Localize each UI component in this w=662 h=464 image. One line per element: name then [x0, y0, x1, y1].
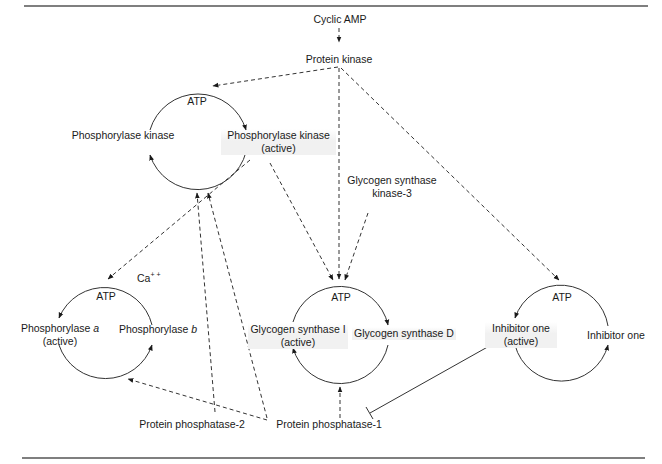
label-protein-kinase: Protein kinase — [298, 53, 380, 66]
pathway-diagram — [0, 0, 662, 464]
cycle3-atp: ATP — [329, 291, 353, 304]
cycle3-left-line1: Glycogen synthase I — [248, 323, 348, 336]
cycle4-left: Inhibitor one (active) — [485, 322, 557, 348]
gsk3-line2: kinase-3 — [342, 187, 442, 200]
edge-phk-to-gs-cycle — [270, 163, 333, 280]
cycle4-atp: ATP — [550, 291, 574, 304]
ca-superscript: + + — [150, 271, 160, 278]
cycle3-left-line2: (active) — [248, 336, 348, 349]
label-cyclic-amp: Cyclic AMP — [304, 13, 376, 26]
cycle4-left-line1: Inhibitor one — [485, 322, 557, 335]
cycle2-left-line1: Phosphorylase a — [20, 322, 100, 335]
label-calcium: Ca+ + — [137, 268, 167, 285]
cycle3-left: Glycogen synthase I (active) — [248, 323, 348, 349]
cycle3-right: Glycogen synthase D — [352, 327, 456, 340]
cycle2-right: Phosphorylase b — [116, 323, 200, 336]
cycle1-right-line2: (active) — [221, 142, 336, 155]
gsk3-line1: Glycogen synthase — [342, 174, 442, 187]
cycle4-left-line2: (active) — [485, 335, 557, 348]
ca-text: Ca — [137, 272, 150, 284]
label-gsk3: Glycogen synthase kinase-3 — [342, 174, 442, 200]
cycle4-right: Inhibitor one — [581, 329, 651, 342]
edge-gsk3-to-gs-cycle — [345, 213, 368, 280]
cycle1-right-line1: Phosphorylase kinase — [221, 129, 336, 142]
label-pp1: Protein phosphatase-1 — [270, 418, 388, 431]
edge-pk-to-phk-cycle — [213, 67, 338, 86]
cycle2-left-line2: (active) — [20, 335, 100, 348]
edge-pp1-to-phosphorylase-cycle — [128, 379, 267, 420]
edge-phk-to-phosphorylase-cycle — [108, 160, 250, 279]
label-pp2: Protein phosphatase-2 — [133, 418, 251, 431]
cycle2-left: Phosphorylase a (active) — [20, 322, 100, 348]
cycle1-left: Phosphorylase kinase — [67, 129, 179, 142]
cycle1-atp: ATP — [185, 95, 209, 108]
cycle2-atp: ATP — [94, 290, 118, 303]
edge-pp1-to-phk-cycle — [208, 193, 267, 418]
edge-pp2-to-phk-cycle — [197, 193, 215, 412]
cycle1-right: Phosphorylase kinase (active) — [221, 129, 336, 155]
